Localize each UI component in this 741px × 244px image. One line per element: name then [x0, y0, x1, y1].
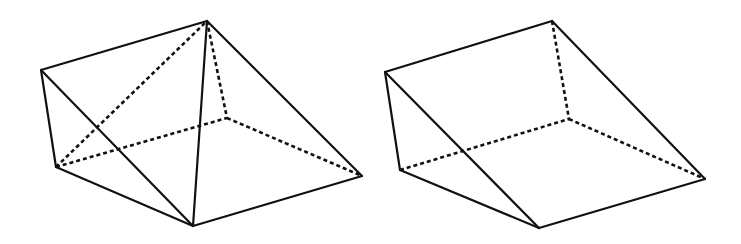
visible-edge-AD — [385, 72, 539, 228]
visible-edge-DE — [193, 176, 362, 226]
hidden-edge-FE — [569, 119, 705, 179]
hidden-edge-CF — [400, 119, 569, 170]
visible-edge-DE — [539, 179, 705, 228]
hidden-edge-BF — [207, 21, 227, 118]
visible-edge-AB — [385, 21, 552, 72]
visible-edge-AD — [41, 70, 193, 226]
figure-right-prism — [385, 21, 705, 228]
diagram-canvas — [0, 0, 741, 244]
visible-edge-BE — [552, 21, 705, 179]
visible-edge-BE — [207, 21, 362, 176]
visible-edge-AC — [385, 72, 400, 170]
hidden-edge-FE — [227, 118, 362, 176]
visible-edge-CD — [400, 170, 539, 228]
visible-edge-CD — [56, 167, 193, 226]
figure-left-prism-dissected — [41, 21, 362, 226]
